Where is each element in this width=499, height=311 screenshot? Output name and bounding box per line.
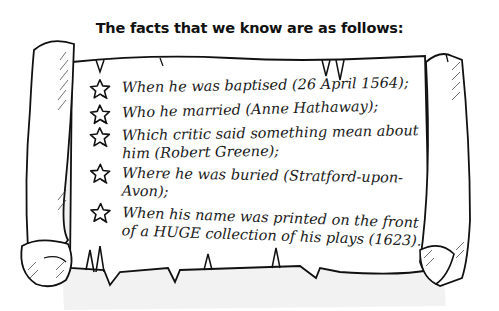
left-scroll-roll: [21, 41, 74, 286]
fact-text: When he was baptised (26 April 1564);: [122, 74, 409, 95]
fact-text: Where he was buried (Stratford-upon-Avon…: [122, 165, 403, 200]
fact-text: Who he married (Anne Hathaway);: [122, 98, 379, 121]
star-icon: [88, 201, 113, 224]
list-item: Where he was buried (Stratford-upon-Avon…: [88, 163, 429, 205]
list-item: Who he married (Anne Hathaway);: [88, 96, 428, 123]
fact-text: When his name was printed on the front o…: [121, 204, 421, 248]
list-item: When he was baptised (26 April 1564);: [88, 73, 428, 97]
star-icon: [88, 78, 112, 100]
facts-list: When he was baptised (26 April 1564); Wh…: [88, 76, 428, 250]
star-icon: [88, 103, 113, 126]
star-icon: [88, 162, 112, 184]
star-icon: [88, 126, 112, 148]
list-item: Which critic said something mean about h…: [88, 121, 429, 163]
list-item: When his name was printed on the front o…: [87, 202, 428, 250]
fact-text: Which critic said something mean about h…: [122, 122, 419, 161]
